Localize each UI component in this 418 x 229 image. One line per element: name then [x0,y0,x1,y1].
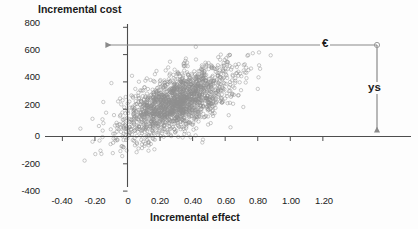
scatter-point [147,149,150,152]
ys-annotation-label: ys [366,82,383,94]
y-tick-label-minus200: -200 [2,159,40,169]
scatter-point [219,53,222,56]
scatter-point [83,159,86,162]
scatter-point [101,118,104,121]
scatter-point [124,95,127,98]
scatter-point [153,73,156,76]
x-axis-title: Incremental effect [150,212,240,223]
scatter-point [173,68,176,71]
scatter-point [207,67,210,70]
scatter-point [122,138,125,141]
y-tick-label-minus400: -400 [2,186,40,196]
scatter-point [229,126,232,129]
y-tick-label-0: 0 [6,131,40,141]
scatter-point [227,114,230,117]
euro-annotation-label: € [320,38,330,50]
scatter-point [130,74,133,77]
y-tick-label-800: 800 [6,18,40,28]
scatter-point [245,76,248,79]
scatter-point [239,89,242,92]
scatter-point [194,45,197,48]
scatter-point [256,87,259,90]
scatter-point [97,124,100,127]
scatter-point [121,154,124,157]
scatter-point [211,114,214,117]
scatter-point [102,122,105,125]
scatter-point [153,148,156,151]
y-axis-title: Incremental cost [38,4,121,15]
scatter-point [104,111,107,114]
y-axis-ticks [123,27,128,191]
scatter-point [120,103,123,106]
scatter-point [251,52,254,55]
scatter-point [91,117,94,120]
scatter-point [119,149,122,152]
cost-effectiveness-plane-chart: Incremental cost Incremental effect 800 … [0,0,418,229]
scatter-point [118,97,121,100]
scatter-point [134,87,137,90]
scatter-point [164,69,167,72]
scatter-point [249,67,252,70]
scatter-point [197,120,200,123]
scatter-points-group [79,45,273,162]
scatter-point [168,60,171,63]
scatter-point [79,127,82,130]
scatter-point [238,81,241,84]
scatter-point [257,64,260,67]
scatter-point [192,128,195,131]
axes-group [45,24,411,191]
y-tick-label-600: 600 [6,45,40,55]
scatter-point [123,106,126,109]
scatter-point [269,54,272,57]
scatter-point [137,147,140,150]
scatter-point [111,151,114,154]
scatter-point [101,135,104,138]
scatter-point [194,58,197,61]
y-tick-label-400: 400 [6,72,40,82]
scatter-point [102,100,105,103]
scatter-point [98,139,101,142]
scatter-point [101,129,104,132]
scatter-point [258,67,261,70]
scatter-point [257,51,260,54]
scatter-point [172,73,175,76]
scatter-point [137,80,140,83]
scatter-point [99,149,102,152]
scatter-point [94,152,97,155]
x-tick-label-120: 1.20 [302,196,346,206]
scatter-point [109,128,112,131]
scatter-point [231,102,234,105]
scatter-point [187,132,190,135]
scatter-point [186,65,189,68]
scatter-point [242,105,245,108]
scatter-point [110,81,113,84]
scatter-point [257,76,260,79]
y-tick-label-200: 200 [6,100,40,110]
scatter-point [112,113,115,116]
scatter-point [167,66,170,69]
scatter-point [146,87,149,90]
scatter-point [91,140,94,143]
scatter-point [244,81,247,84]
scatter-point [135,151,138,154]
